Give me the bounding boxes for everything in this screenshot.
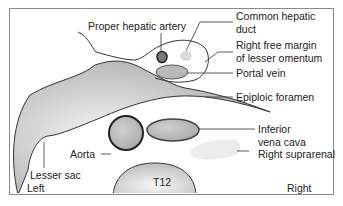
label-right-free-margin-line1: Right free margin (236, 39, 317, 51)
label-common-hepatic-duct-line1: Common hepatic (236, 10, 315, 22)
lesser-omentum-line (78, 32, 160, 60)
label-common-hepatic-duct-line2: duct (236, 23, 256, 35)
label-left: Left (27, 182, 45, 194)
portal-vein-shape (156, 65, 188, 79)
label-epiploic-foramen: Epiploic foramen (236, 91, 314, 103)
proper-hepatic-artery-shape (157, 52, 167, 63)
label-right-suprarenal: Right suprarenal (258, 148, 335, 160)
right-suprarenal-shape (190, 140, 240, 159)
ivc-shape (147, 119, 199, 141)
aorta-shape (109, 116, 143, 150)
label-right: Right (287, 182, 312, 194)
label-lesser-sac: Lesser sac (30, 169, 81, 181)
label-portal-vein: Portal vein (236, 67, 286, 79)
label-aorta: Aorta (70, 148, 95, 160)
label-t12: T12 (153, 176, 171, 188)
label-right-free-margin-line2: of lesser omentum (236, 52, 322, 64)
label-ivc-line1: Inferior (258, 123, 291, 135)
label-ivc-line2: vena cava (258, 136, 306, 148)
common-hepatic-duct-shape (181, 52, 191, 60)
label-proper-hepatic-artery: Proper hepatic artery (88, 20, 186, 32)
